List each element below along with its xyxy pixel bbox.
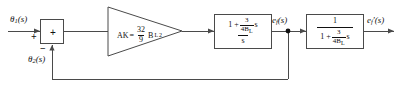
- arrowhead-output: [388, 28, 394, 33]
- output-signal-label: ef'(s): [367, 16, 384, 26]
- loop-filter-block[interactable]: 1 +34BLs s: [214, 14, 272, 49]
- amplifier-variable: B: [148, 31, 153, 40]
- loop-filter-inline-den-text: 4B: [241, 25, 249, 33]
- lag-block-inline-fraction: 34BL: [332, 29, 346, 46]
- feedback-sign-minus: −: [40, 44, 46, 54]
- feedback-tap-node-dot: [286, 29, 291, 34]
- output-signal-arg: (s): [375, 15, 385, 25]
- amplifier-gain-label: AK: [117, 31, 129, 40]
- loop-filter-inline-den: 4BL: [240, 25, 254, 34]
- amplifier-gain-expression: AK=329BL2: [117, 26, 162, 44]
- input-signal-arg: (s): [18, 14, 28, 24]
- amplifier-coefficient-numerator: 32: [136, 26, 146, 35]
- feedback-signal-arg: (s): [36, 54, 46, 64]
- amplifier-exponent: 2: [159, 32, 162, 38]
- amplifier-coefficient-fraction: 329: [136, 26, 146, 44]
- loop-filter-numerator: 1 +34BLs: [225, 17, 260, 35]
- lag-block-numerator: 1: [330, 17, 340, 26]
- loop-filter-denominator: s: [238, 35, 247, 46]
- feedback-signal-label: θ2(s): [28, 55, 45, 65]
- input-sign-plus: +: [31, 32, 37, 42]
- block-diagram: + θ1(s) + − θ2(s) AK=329BL2 1 +34BLs s e…: [0, 0, 400, 89]
- lag-block-denominator: 1 +34BLs: [317, 27, 352, 46]
- intermediate-signal-label: ef(s): [272, 16, 287, 26]
- intermediate-signal-arg: (s): [278, 15, 288, 25]
- loop-filter-expression: 1 +34BLs s: [225, 17, 260, 45]
- lag-block-den-prefix: 1 +: [320, 32, 331, 41]
- input-signal-label: θ1(s): [10, 15, 27, 25]
- amplifier-equals: =: [130, 31, 135, 40]
- lag-block[interactable]: 1 1 +34BLs: [306, 14, 364, 49]
- loop-filter-inline-fraction: 34BL: [240, 17, 254, 34]
- amplifier-coefficient-denominator: 9: [138, 35, 144, 45]
- loop-filter-num-suffix: s: [255, 20, 258, 29]
- loop-filter-inline-num: 3: [244, 17, 250, 25]
- lag-block-inline-num: 3: [336, 29, 342, 37]
- amplifier-variable-subscript: L: [154, 32, 158, 38]
- lag-block-inline-den-subscript: L: [341, 40, 345, 46]
- lag-block-inline-den-text: 4B: [333, 37, 341, 45]
- lag-block-den-suffix: s: [347, 32, 350, 41]
- lag-block-inline-den: 4BL: [332, 37, 346, 46]
- loop-filter-num-prefix: 1 +: [228, 20, 239, 29]
- loop-filter-inline-den-subscript: L: [249, 28, 253, 34]
- lag-block-expression: 1 1 +34BLs: [317, 17, 352, 45]
- summing-junction[interactable]: +: [40, 19, 64, 44]
- summing-junction-symbol: +: [50, 27, 56, 38]
- arrowhead-feedback-into-sum: [49, 45, 54, 50]
